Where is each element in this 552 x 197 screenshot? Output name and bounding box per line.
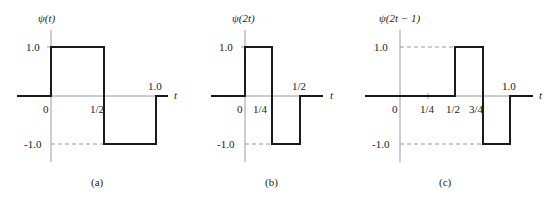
- y-axis-label: ψ(t): [38, 12, 56, 25]
- x-tick-label: 1/2: [292, 80, 306, 92]
- y-tick-label: -1.0: [217, 138, 235, 150]
- y-axis-label: ψ(2t): [232, 12, 255, 25]
- x-tick-label: 0: [392, 103, 398, 115]
- y-tick-label: 1.0: [26, 41, 40, 53]
- panel-a: ψ(t) t 1.0 -1.0 0 1/2 1.0 (a): [17, 12, 178, 189]
- panel-caption: (c): [439, 176, 452, 189]
- panel-caption: (a): [91, 176, 104, 189]
- x-tick-label: 1.0: [148, 80, 162, 92]
- y-tick-label: -1.0: [24, 138, 42, 150]
- x-tick-label: 1/2: [90, 103, 104, 115]
- x-tick-label: 1/4: [253, 103, 268, 115]
- x-tick-label: 0: [237, 103, 243, 115]
- y-tick-label: 1.0: [219, 41, 233, 53]
- y-tick-label: -1.0: [372, 138, 390, 150]
- x-axis-label: t: [330, 89, 334, 101]
- x-tick-label: 1.0: [502, 80, 516, 92]
- y-axis-label: ψ(2t − 1): [379, 12, 420, 25]
- x-axis-label: t: [174, 89, 178, 101]
- x-tick-label: 0: [43, 103, 49, 115]
- figure: ψ(t) t 1.0 -1.0 0 1/2 1.0 (a) ψ(2t) t 1.…: [0, 0, 552, 197]
- panel-c: ψ(2t − 1) t 1.0 -1.0 0 1/4 1/2 3/4 1.0 (…: [365, 12, 543, 189]
- y-tick-label: 1.0: [374, 41, 388, 53]
- x-tick-label: 1/4: [420, 103, 435, 115]
- panel-caption: (b): [265, 176, 278, 189]
- x-axis-label: t: [539, 89, 543, 101]
- panel-b: ψ(2t) t 1.0 -1.0 0 1/4 1/2 (b): [211, 12, 334, 189]
- x-tick-label: 1/2: [446, 103, 460, 115]
- x-tick-label: 3/4: [469, 103, 484, 115]
